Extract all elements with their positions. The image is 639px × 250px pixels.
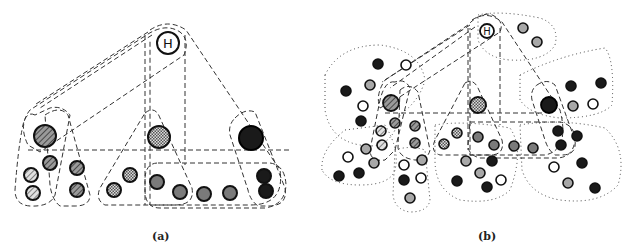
- region-node: [549, 162, 559, 172]
- region-node: [416, 173, 426, 183]
- leaf-node: [26, 186, 40, 200]
- region-node: [452, 176, 462, 186]
- leaf-node: [173, 185, 187, 199]
- region-node: [518, 23, 528, 33]
- region-node: [577, 158, 587, 168]
- region-node: [568, 101, 578, 111]
- leaf-node: [390, 118, 400, 128]
- region-hull-lower-right: [520, 122, 621, 201]
- leaf-node: [528, 143, 538, 153]
- leaf-node: [439, 139, 449, 149]
- region-node: [532, 37, 542, 47]
- region-node: [361, 144, 371, 154]
- region-node: [373, 59, 383, 69]
- region-node: [482, 182, 492, 192]
- leaf-node: [197, 187, 211, 201]
- leaf-node: [410, 138, 420, 148]
- region-node: [354, 168, 364, 178]
- region-node: [365, 80, 375, 90]
- region-node: [563, 178, 573, 188]
- node-hatched-large: [34, 125, 56, 147]
- hull-right-group: [230, 111, 286, 206]
- region-node: [461, 156, 471, 166]
- panel-b-caption: (b): [478, 230, 496, 243]
- region-hulls-b: [322, 13, 621, 212]
- region-node: [572, 131, 582, 141]
- leaf-node: [24, 168, 38, 182]
- region-node: [358, 101, 368, 111]
- region-node: [334, 171, 344, 181]
- region-node: [588, 99, 598, 109]
- leaf-node: [376, 126, 386, 136]
- region-node: [590, 183, 600, 193]
- region-node: [405, 193, 415, 203]
- region-node: [369, 158, 379, 168]
- leaf-node: [123, 168, 137, 182]
- node-black-large: [541, 97, 557, 113]
- root-node-a: H: [157, 32, 179, 54]
- figure-canvas: H: [0, 0, 639, 250]
- node-checker-large: [470, 97, 486, 113]
- leaf-node: [70, 161, 84, 175]
- region-node: [399, 175, 409, 185]
- leaf-node: [489, 140, 499, 150]
- region-node: [496, 175, 506, 185]
- region-node: [343, 152, 353, 162]
- hull-left-group: [15, 107, 70, 206]
- svg-text:H: H: [163, 36, 173, 51]
- node-checker-large: [148, 126, 170, 148]
- leaf-node: [509, 141, 519, 151]
- region-node: [356, 116, 366, 126]
- leaf-node: [553, 126, 563, 136]
- leaf-node: [150, 175, 164, 189]
- hull-center-branch: [468, 28, 500, 150]
- panel-a-caption: (a): [152, 230, 170, 243]
- region-node: [401, 60, 411, 70]
- node-hatched-large: [383, 95, 399, 111]
- leaf-node: [257, 169, 271, 183]
- region-node: [475, 168, 485, 178]
- region-node: [566, 81, 576, 91]
- leaf-node: [473, 132, 483, 142]
- leaf-node: [377, 140, 387, 150]
- leaf-node: [223, 186, 237, 200]
- leaf-node: [452, 128, 462, 138]
- region-node: [417, 155, 427, 165]
- leaf-node: [556, 140, 566, 150]
- hull-right-group: [532, 82, 576, 156]
- svg-text:H: H: [483, 26, 491, 37]
- panel-b: H: [322, 13, 621, 212]
- panel-a: H: [15, 24, 290, 208]
- leaf-node: [410, 121, 420, 131]
- region-node: [596, 78, 606, 88]
- region-node: [487, 156, 497, 166]
- root-node-b: H: [480, 24, 494, 38]
- region-node: [341, 86, 351, 96]
- region-node: [399, 160, 409, 170]
- leaf-node: [70, 183, 84, 197]
- leaf-node: [43, 156, 57, 170]
- leaf-node: [107, 183, 121, 197]
- leaf-node: [259, 184, 273, 198]
- node-black-large: [239, 126, 263, 150]
